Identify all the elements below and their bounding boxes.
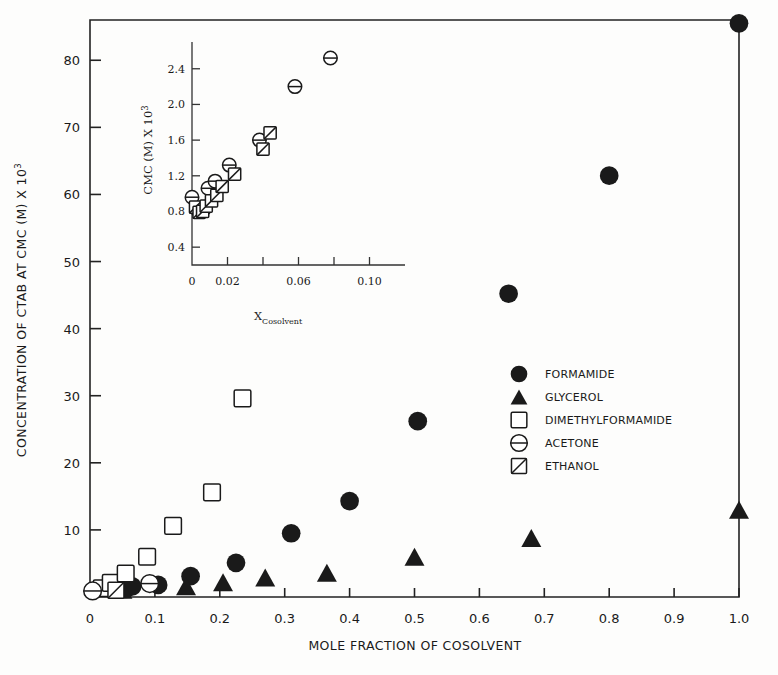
figure-container: 00.10.20.30.40.50.60.70.80.91.0 10203040… xyxy=(0,0,778,675)
marker-filled-circle xyxy=(282,524,301,543)
x-axis-title: MOLE FRACTION OF COSOLVENT xyxy=(308,638,521,653)
main-plot-frame xyxy=(90,20,739,597)
legend-item-glycerol[interactable]: GLYCEROL xyxy=(511,389,604,404)
legend-item-acetone[interactable]: ACETONE xyxy=(511,435,599,452)
inset-x-tick-label: 0 xyxy=(189,275,196,288)
marker-open-square xyxy=(139,548,156,565)
legend-label: ACETONE xyxy=(545,437,599,450)
marker-open-square xyxy=(511,412,527,428)
marker-square-diag xyxy=(108,582,124,598)
x-tick-label: 0.1 xyxy=(145,611,166,626)
legend-label: ETHANOL xyxy=(545,460,600,473)
x-tick-label: 0 xyxy=(86,611,94,626)
inset-x-axis-title: XCosolvent xyxy=(254,309,303,326)
y-tick-label: 50 xyxy=(63,255,80,270)
marker-filled-triangle xyxy=(521,529,541,547)
inset-y-tick-label: 2.4 xyxy=(168,63,186,76)
marker-square-diag xyxy=(511,458,526,473)
y-axis-title: CONCENTRATION OF CTAB AT CMC (M) X 103 xyxy=(13,163,29,457)
legend-item-dimethylformamide[interactable]: DIMETHYLFORMAMIDE xyxy=(511,412,672,428)
inset-y-tick-label: 1.6 xyxy=(168,134,186,147)
inset-data-points xyxy=(185,51,337,218)
marker-filled-circle xyxy=(511,366,528,383)
marker-circle-hline xyxy=(324,51,338,65)
inset-plot-axes xyxy=(192,42,405,265)
marker-filled-triangle xyxy=(511,389,528,404)
y-tick-label: 10 xyxy=(63,523,80,538)
inset-x-axis-ticks xyxy=(228,257,370,265)
marker-filled-circle xyxy=(600,166,619,185)
marker-filled-circle xyxy=(730,14,749,33)
marker-filled-triangle xyxy=(729,501,749,519)
legend-label: FORMAMIDE xyxy=(545,368,615,381)
marker-open-square xyxy=(234,390,251,407)
x-tick-label: 0.9 xyxy=(664,611,685,626)
y-tick-label: 80 xyxy=(63,53,80,68)
marker-square-diag xyxy=(216,180,228,192)
legend-item-ethanol[interactable]: ETHANOL xyxy=(511,458,599,473)
marker-square-diag xyxy=(264,127,276,139)
scatter-chart: 00.10.20.30.40.50.60.70.80.91.0 10203040… xyxy=(0,0,778,675)
marker-filled-triangle xyxy=(405,548,425,566)
marker-filled-triangle xyxy=(213,573,233,591)
marker-circle-hline xyxy=(141,575,159,593)
x-tick-label: 0.4 xyxy=(339,611,360,626)
inset-x-axis-tick-labels: 00.020.060.10 xyxy=(189,275,382,288)
marker-open-square xyxy=(204,484,221,501)
y-tick-label: 70 xyxy=(63,120,80,135)
inset-y-tick-label: 2.0 xyxy=(168,98,186,111)
inset-x-tick-label: 0.06 xyxy=(286,275,311,288)
marker-square-diag xyxy=(228,168,240,180)
inset-y-axis-tick-labels: 0.40.81.21.62.02.4 xyxy=(168,63,186,254)
x-tick-label: 0.7 xyxy=(534,611,555,626)
marker-filled-circle xyxy=(227,553,246,572)
y-axis-tick-labels: 1020304050607080 xyxy=(63,53,80,538)
x-tick-label: 0.2 xyxy=(209,611,230,626)
x-axis-tick-labels: 00.10.20.30.40.50.60.70.80.91.0 xyxy=(86,611,749,626)
inset-y-tick-label: 1.2 xyxy=(168,170,186,183)
y-axis-ticks xyxy=(90,60,101,530)
y-tick-label: 60 xyxy=(63,187,80,202)
legend-label: DIMETHYLFORMAMIDE xyxy=(545,414,672,427)
x-tick-label: 0.6 xyxy=(469,611,490,626)
inset-y-axis-title: CMC (M) X 103 xyxy=(140,105,155,194)
inset-x-tick-label: 0.02 xyxy=(215,275,240,288)
marker-open-square xyxy=(165,518,182,535)
inset-x-tick-label: 0.10 xyxy=(357,275,382,288)
marker-filled-circle xyxy=(408,412,427,431)
marker-filled-circle xyxy=(499,284,518,303)
marker-circle-hline xyxy=(288,80,302,94)
marker-square-diag xyxy=(257,143,269,155)
marker-circle-hline xyxy=(84,582,102,600)
inset-y-axis-ticks xyxy=(192,69,200,247)
x-tick-label: 0.8 xyxy=(599,611,620,626)
inset-y-tick-label: 0.8 xyxy=(168,205,186,218)
legend-item-formamide[interactable]: FORMAMIDE xyxy=(511,366,615,383)
marker-open-square xyxy=(117,565,134,582)
legend: FORMAMIDEGLYCEROLDIMETHYLFORMAMIDEACETON… xyxy=(511,366,673,474)
x-tick-label: 0.3 xyxy=(274,611,295,626)
legend-label: GLYCEROL xyxy=(545,391,604,404)
y-tick-label: 30 xyxy=(63,389,80,404)
marker-filled-triangle xyxy=(255,569,275,587)
y-tick-label: 40 xyxy=(63,322,80,337)
marker-circle-hline xyxy=(511,435,528,452)
y-tick-label: 20 xyxy=(63,456,80,471)
x-tick-label: 1.0 xyxy=(729,611,750,626)
inset-y-tick-label: 0.4 xyxy=(168,241,186,254)
marker-filled-circle xyxy=(340,492,359,511)
marker-filled-triangle xyxy=(317,564,337,582)
x-tick-label: 0.5 xyxy=(404,611,425,626)
